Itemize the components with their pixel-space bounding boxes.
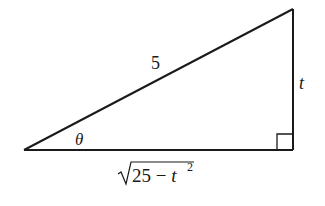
adjacent-side-label: 25 − t 2 (118, 160, 194, 186)
diagram-canvas: 5 t θ 25 − t 2 (0, 0, 325, 206)
angle-theta-label: θ (75, 130, 83, 149)
hypotenuse-label: 5 (151, 53, 160, 73)
right-angle-marker (277, 134, 293, 150)
opposite-side-label: t (299, 73, 305, 93)
hypotenuse-line (24, 9, 293, 150)
radicand-main: 25 − (132, 165, 171, 186)
right-triangle-figure: 5 t θ 25 − t 2 (0, 0, 325, 206)
radicand-exponent: 2 (187, 160, 193, 174)
radicand-text: 25 − t (132, 165, 177, 186)
radicand-variable: t (171, 165, 177, 186)
